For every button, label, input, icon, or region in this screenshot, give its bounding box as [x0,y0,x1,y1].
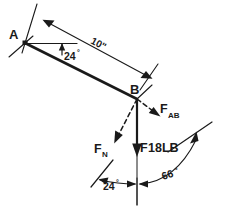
angle-arc-24deg-arrowhead-right [127,181,137,188]
angle-label-bottom-24-degree-symbol: ° [116,179,119,186]
angle-label-bottom-24-value: 24 [103,180,115,192]
angle-label-bottom-66deg: 66 ° [160,166,179,182]
force-label-f-ab: F AB [160,102,180,120]
angle-label-bottom-24deg: 24 ° [103,179,119,192]
force-vector-f-ab [137,99,161,117]
point-label-b: B [130,82,139,97]
force-f-n-shaft [117,99,137,138]
point-label-a: A [9,27,19,42]
angle-arc-66deg-arrowhead-left [139,181,149,188]
angle-label-bottom-66-value: 66 [160,167,175,182]
force-label-f-n-subscript: N [102,150,108,159]
force-vector-f-n [114,99,137,143]
force-label-18lb: F 18LB [140,141,179,155]
force-label-f-n-base: F [94,142,102,156]
angle-label-bottom-66-degree-symbol: ° [174,166,179,174]
fbd-drawing: A B 10" 24 ° F AB F N F 18LB 24 ° [0,0,225,214]
force-f-n-arrowhead [114,131,123,144]
force-label-f-n: F N [94,142,108,159]
angle-label-a-degree-symbol: ° [77,49,80,56]
dimension-arrowhead-left [43,20,55,28]
force-label-f-ab-subscript: AB [168,111,180,120]
angle-label-a-value: 24 [64,50,76,62]
dimension-label-10in: 10" [89,35,108,52]
force-label-18lb-value: 18LB [148,141,179,155]
incline-reference-right-arrowhead [190,132,199,144]
angle-label-a-24deg: 24 ° [64,49,80,62]
bar-member-ab [25,43,137,99]
force-label-18lb-base: F [140,141,148,155]
force-label-f-ab-base: F [160,102,168,116]
free-body-diagram-canvas: A B 10" 24 ° F AB F N F 18LB 24 ° [0,0,225,214]
